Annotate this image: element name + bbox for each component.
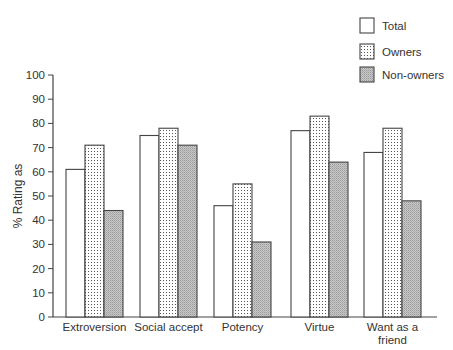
bar-non-owners	[402, 201, 421, 317]
y-tick-label: 90	[32, 93, 45, 105]
legend-swatch	[360, 44, 374, 59]
y-tick-label: 60	[32, 166, 45, 178]
bar-total	[140, 136, 159, 318]
x-tick-label: Want as a	[367, 321, 419, 333]
legend-label: Owners	[382, 46, 422, 58]
bar-owners	[383, 128, 402, 317]
y-tick-label: 100	[26, 69, 45, 81]
bar-owners	[233, 184, 252, 317]
y-tick-label: 40	[32, 214, 45, 226]
bar-non-owners	[329, 162, 348, 317]
x-tick-label: Extroversion	[63, 321, 127, 333]
bar-non-owners	[104, 211, 123, 317]
bars	[66, 116, 421, 317]
bar-total	[364, 152, 383, 317]
legend-swatch	[360, 18, 374, 33]
x-tick-label: Virtue	[305, 321, 335, 333]
y-tick-label: 20	[32, 263, 45, 275]
y-tick-label: 10	[32, 287, 45, 299]
y-tick-label: 80	[32, 117, 45, 129]
bar-owners	[159, 128, 178, 317]
bar-non-owners	[178, 145, 197, 317]
bar-non-owners	[252, 242, 271, 317]
bar-owners	[310, 116, 329, 317]
y-tick-label: 50	[32, 190, 45, 202]
bar-owners	[85, 145, 104, 317]
bar-total	[214, 206, 233, 317]
y-axis-label: % Rating as	[11, 164, 25, 229]
legend-swatch	[360, 67, 374, 82]
legend-label: Total	[382, 20, 406, 32]
x-tick-label: Potency	[222, 321, 264, 333]
y-tick-label: 30	[32, 238, 45, 250]
x-axis-labels: ExtroversionSocial acceptPotencyVirtueWa…	[63, 321, 419, 346]
x-tick-label: Social accept	[134, 321, 203, 333]
bar-chart: 0102030405060708090100 ExtroversionSocia…	[0, 0, 453, 350]
bar-total	[291, 131, 310, 317]
y-tick-label: 70	[32, 142, 45, 154]
bar-total	[66, 169, 85, 317]
x-tick-label: friend	[378, 334, 407, 346]
legend: TotalOwnersNon-owners	[360, 18, 444, 82]
y-tick-label: 0	[39, 311, 45, 323]
legend-label: Non-owners	[382, 69, 444, 81]
